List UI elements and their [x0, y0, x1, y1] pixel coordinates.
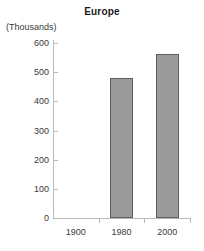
x-axis-tick: [99, 218, 100, 223]
x-axis-tick-label: 1980: [99, 227, 145, 237]
x-axis-line: [53, 218, 190, 219]
x-axis-tick: [190, 218, 191, 223]
y-axis-tick-label: 500: [5, 67, 49, 77]
y-axis-tick: [53, 189, 58, 190]
y-axis-tick-label: 400: [5, 96, 49, 106]
bar-2000: [156, 54, 179, 218]
y-axis-tick: [53, 131, 58, 132]
y-axis-tick-label: 0: [5, 213, 49, 223]
x-axis-tick-label: 2000: [144, 227, 190, 237]
y-axis-tick-label: 200: [5, 155, 49, 165]
y-axis-tick-label: 100: [5, 184, 49, 194]
bar-1980: [110, 78, 133, 218]
y-axis-tick: [53, 43, 58, 44]
chart-title: Europe: [0, 6, 204, 17]
y-axis-units-label: (Thousands): [6, 22, 57, 32]
y-axis-tick: [53, 160, 58, 161]
bar-chart: Europe (Thousands) 0100200300400500600 1…: [0, 0, 204, 251]
y-axis-tick: [53, 101, 58, 102]
x-axis-tick-label: 1900: [53, 227, 99, 237]
y-axis-tick-label: 600: [5, 38, 49, 48]
y-axis-line: [53, 40, 54, 219]
y-axis-tick-label: 300: [5, 126, 49, 136]
x-axis-tick: [144, 218, 145, 223]
y-axis-tick: [53, 218, 58, 219]
y-axis-tick: [53, 72, 58, 73]
